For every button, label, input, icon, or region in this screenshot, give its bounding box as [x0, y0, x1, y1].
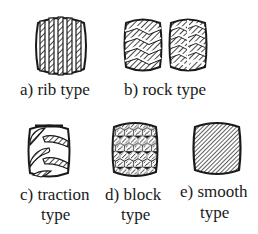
traction-type-label-line2: type: [41, 206, 70, 224]
block-type-label-line2: type: [121, 206, 150, 224]
smooth-type-label: e) smooth: [180, 183, 248, 201]
rock-tire-figure-2: [168, 17, 208, 73]
smooth-tire-figure: [192, 120, 242, 177]
rib-tire-figure: [34, 15, 88, 77]
smooth-type-label-line2: type: [200, 204, 229, 222]
block-type-label: d) block: [105, 186, 161, 204]
traction-type-label: c) traction: [20, 186, 89, 204]
traction-tire-figure: [27, 123, 71, 179]
block-tire-figure: [111, 120, 159, 179]
rock-type-label: b) rock type: [124, 81, 206, 99]
rib-type-label: a) rib type: [20, 81, 90, 99]
rock-tire-figure-1: [123, 17, 163, 73]
